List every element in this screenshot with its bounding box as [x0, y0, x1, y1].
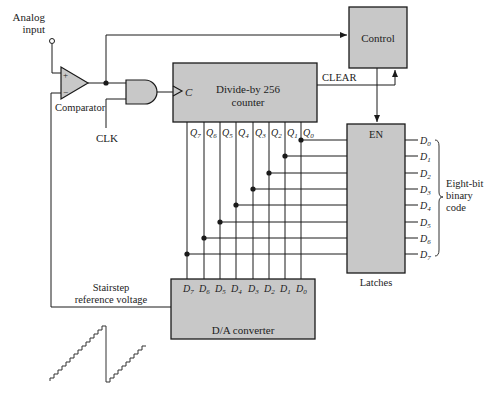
adc-diagram: Analog input + − Comparator CLK Control … [0, 0, 492, 398]
counter-clock-pin: C [185, 86, 193, 98]
svg-text:D4: D4 [419, 200, 431, 213]
clear-label: CLEAR [322, 72, 356, 83]
svg-text:Q4: Q4 [238, 127, 249, 140]
svg-text:Q1: Q1 [287, 127, 298, 140]
clk-label: CLK [96, 132, 118, 144]
output-group-label-2: binary [446, 190, 474, 201]
svg-text:Q5: Q5 [222, 127, 233, 140]
comparator-minus: − [63, 87, 68, 97]
counter-block: C Divide-by 256 counter [173, 63, 317, 122]
counter-label-1: Divide-by 256 [216, 83, 280, 95]
svg-text:D7: D7 [419, 249, 431, 262]
dac-block: D7 D6 D5 D4 D3 D2 D1 D0 D/A converter [171, 279, 315, 339]
dac-label: D/A converter [212, 324, 275, 336]
stairstep-waveform-icon [50, 326, 146, 382]
svg-text:Q2: Q2 [271, 127, 282, 140]
control-block: Control [349, 7, 407, 68]
brace-icon [435, 140, 443, 256]
bus-junctions [184, 137, 303, 256]
stairstep-label-2: reference voltage [75, 294, 148, 305]
analog-input-label-2: input [22, 23, 45, 35]
stairstep-feedback-wire [51, 93, 171, 307]
svg-text:D1: D1 [419, 151, 431, 164]
analog-input: Analog input [13, 11, 61, 73]
counter-label-2: counter [232, 96, 265, 108]
control-label: Control [361, 32, 395, 44]
latches-box [347, 124, 405, 273]
clk-wire [106, 99, 126, 128]
svg-text:D2: D2 [419, 168, 431, 181]
comparator-plus: + [63, 70, 68, 80]
svg-text:D5: D5 [419, 217, 431, 230]
analog-input-label-1: Analog [13, 11, 46, 23]
latches-block: EN Latches [347, 124, 405, 288]
input-terminal-icon [50, 39, 55, 44]
analog-input-wire [52, 44, 61, 73]
latch-outputs: D0 D1 D2 D3 D4 D5 D6 D7 Eight-bit binary… [405, 135, 483, 262]
comparator: + − Comparator [55, 67, 106, 113]
stairstep-label-1: Stairstep [93, 282, 130, 293]
data-bus [187, 122, 347, 279]
svg-text:Q7: Q7 [190, 127, 201, 140]
output-group-label-1: Eight-bit [446, 178, 483, 189]
and-gate: CLK [96, 80, 173, 144]
svg-text:Q0: Q0 [303, 127, 314, 140]
svg-text:Q3: Q3 [255, 127, 266, 140]
comparator-label: Comparator [55, 102, 106, 113]
svg-text:D0: D0 [419, 135, 431, 148]
latches-label: Latches [360, 277, 393, 288]
and-gate-icon [126, 80, 157, 104]
svg-text:D3: D3 [419, 184, 431, 197]
output-group-label-3: code [446, 202, 466, 213]
latches-enable-label: EN [369, 129, 383, 140]
svg-text:D6: D6 [419, 233, 431, 246]
counter-outputs: Q7 Q6 Q5 Q4 Q3 Q2 Q1 Q0 [190, 127, 314, 140]
svg-text:Q6: Q6 [206, 127, 217, 140]
